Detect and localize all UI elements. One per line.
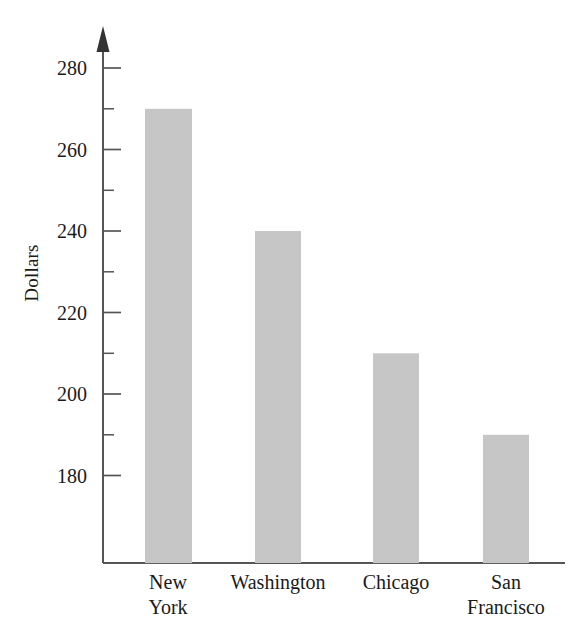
bar-washington xyxy=(255,231,301,563)
y-minor-ticks xyxy=(103,109,114,435)
x-category-label-washington-line1: Washington xyxy=(208,570,348,595)
bar-chicago xyxy=(373,353,419,563)
y-tick-label-280: 280 xyxy=(23,58,87,78)
x-category-label-washington: Washington xyxy=(208,570,348,595)
x-category-label-new-york-line1: New xyxy=(113,570,223,595)
x-category-label-san-francisco-line2: Francisco xyxy=(444,595,568,620)
chart-canvas xyxy=(0,0,582,633)
y-axis-tick-labels: 280 260 240 220 200 180 xyxy=(23,0,87,633)
y-tick-label-220: 220 xyxy=(23,303,87,323)
x-category-label-chicago: Chicago xyxy=(336,570,456,595)
y-tick-label-240: 240 xyxy=(23,221,87,241)
bar-chart: Dollars 280 260 240 220 200 180 New York… xyxy=(0,0,582,633)
y-tick-label-260: 260 xyxy=(23,140,87,160)
y-tick-label-180: 180 xyxy=(23,466,87,486)
x-axis-category-labels: New York Washington Chicago San Francisc… xyxy=(0,570,582,633)
x-category-label-san-francisco-line1: San xyxy=(444,570,568,595)
bar-san-francisco xyxy=(483,435,529,563)
x-category-label-san-francisco: San Francisco xyxy=(444,570,568,620)
y-tick-label-200: 200 xyxy=(23,384,87,404)
x-category-label-new-york: New York xyxy=(113,570,223,620)
x-category-label-new-york-line2: York xyxy=(113,595,223,620)
x-category-label-chicago-line1: Chicago xyxy=(336,570,456,595)
y-axis-arrow-icon xyxy=(97,26,110,52)
bar-new-york xyxy=(145,109,192,563)
